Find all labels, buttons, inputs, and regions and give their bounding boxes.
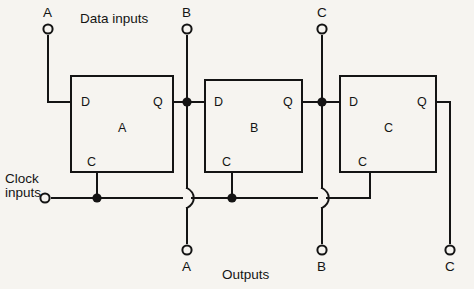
output-a-terminal[interactable] bbox=[182, 245, 191, 254]
clock-input-terminal[interactable] bbox=[40, 193, 49, 202]
data-input-b-terminal[interactable] bbox=[182, 24, 191, 33]
data-input-a-terminal[interactable] bbox=[43, 24, 52, 33]
flipflop-c-pin-q: Q bbox=[417, 96, 427, 109]
data-input-b-label: B bbox=[182, 6, 191, 20]
flipflop-c-pin-d: D bbox=[349, 96, 358, 109]
wire-layer bbox=[48, 36, 450, 243]
flipflop-a-pin-d: D bbox=[81, 96, 90, 109]
flipflop-a-label: A bbox=[118, 122, 126, 135]
flipflop-a-pin-c: C bbox=[87, 156, 96, 169]
data-input-a-label: A bbox=[43, 6, 52, 20]
junction-q-a bbox=[182, 97, 191, 106]
flipflop-b-pin-c: C bbox=[222, 156, 231, 169]
junction-dots bbox=[92, 97, 326, 202]
junction-clock-b bbox=[227, 193, 236, 202]
junction-q-b bbox=[317, 97, 326, 106]
flipflop-b-pin-q: Q bbox=[283, 96, 293, 109]
terminals bbox=[40, 24, 454, 254]
junction-clock-a bbox=[92, 193, 101, 202]
data-input-c-terminal[interactable] bbox=[317, 24, 326, 33]
clock-inputs-label: Clock inputs bbox=[5, 172, 41, 199]
output-a-label: A bbox=[182, 260, 191, 274]
wire-data-a-to-d bbox=[48, 36, 71, 102]
flipflop-b-label: B bbox=[250, 122, 258, 135]
data-input-c-label: C bbox=[317, 6, 327, 20]
output-c-label: C bbox=[445, 260, 455, 274]
output-b-label: B bbox=[317, 260, 326, 274]
circuit-diagram: A B C Data inputs Clock inputs A B C Out… bbox=[0, 0, 474, 289]
clock-inputs-label-line1: Clock bbox=[5, 172, 41, 186]
flipflop-c-pin-c: C bbox=[358, 156, 367, 169]
circuit-svg bbox=[0, 0, 474, 289]
flipflop-b-pin-d: D bbox=[214, 96, 223, 109]
wire-output-c bbox=[436, 102, 450, 243]
flipflop-a-pin-q: Q bbox=[153, 96, 163, 109]
output-c-terminal[interactable] bbox=[445, 245, 454, 254]
flipflop-c-label: C bbox=[384, 122, 393, 135]
data-inputs-group-label: Data inputs bbox=[80, 12, 148, 26]
outputs-group-label: Outputs bbox=[222, 268, 269, 282]
clock-inputs-label-line2: inputs bbox=[5, 186, 41, 200]
output-b-terminal[interactable] bbox=[317, 245, 326, 254]
